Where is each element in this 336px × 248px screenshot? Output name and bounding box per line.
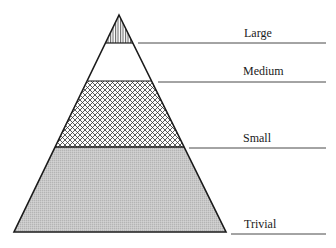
label-trivial: Trivial	[244, 217, 276, 231]
level-large-band	[106, 15, 133, 43]
label-small: Small	[243, 131, 271, 145]
level-small-band	[55, 81, 184, 147]
level-trivial-band	[14, 147, 226, 232]
pyramid-diagram	[0, 0, 336, 248]
label-medium: Medium	[243, 64, 284, 78]
label-large: Large	[244, 26, 272, 40]
